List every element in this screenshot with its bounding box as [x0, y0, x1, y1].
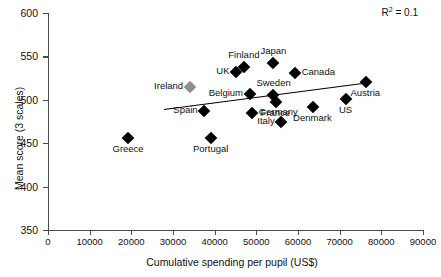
r2-annotation: R2 = 0.1 — [382, 6, 418, 18]
data-point-label: Portugal — [193, 144, 228, 154]
data-point-label: UK — [216, 66, 229, 76]
y-tick-mark — [43, 56, 48, 57]
data-point-label: Greece — [113, 144, 144, 154]
x-tick-mark — [256, 230, 257, 235]
y-tick-label: 600 — [4, 8, 38, 18]
x-axis-line — [48, 230, 423, 231]
y-tick-label: 350 — [4, 225, 38, 235]
data-point-label: Austria — [351, 88, 381, 98]
y-axis-title: Mean score (3 scales) — [13, 87, 25, 190]
x-tick-mark — [215, 230, 216, 235]
x-tick-mark — [423, 230, 424, 235]
data-point-label: US — [339, 105, 352, 115]
x-tick-mark — [381, 230, 382, 235]
data-point-marker[interactable] — [245, 106, 258, 119]
x-tick-label: 90000 — [393, 237, 441, 247]
y-tick-mark — [43, 100, 48, 101]
y-tick-mark — [43, 187, 48, 188]
x-axis-title: Cumulative spending per pupil (US$) — [14, 256, 441, 268]
data-point-label: Sweden — [256, 78, 290, 88]
y-tick-mark — [43, 13, 48, 14]
x-tick-mark — [173, 230, 174, 235]
data-point-marker[interactable] — [198, 105, 211, 118]
r2-prefix: R — [382, 7, 389, 18]
data-point-label: Japan — [260, 46, 286, 56]
x-tick-mark — [340, 230, 341, 235]
y-tick-mark — [43, 143, 48, 144]
data-point-label: Ireland — [154, 81, 183, 91]
data-point-marker[interactable] — [184, 80, 197, 93]
data-point-label: Belgium — [209, 88, 243, 98]
x-tick-mark — [131, 230, 132, 235]
data-point-label: Denmark — [293, 113, 332, 123]
data-point-marker[interactable] — [267, 57, 280, 70]
data-point-label: Canada — [302, 67, 335, 77]
x-tick-mark — [298, 230, 299, 235]
y-tick-label: 550 — [4, 51, 38, 61]
y-axis-line — [48, 13, 49, 231]
data-point-label: Italy — [257, 116, 274, 126]
x-tick-mark — [90, 230, 91, 235]
x-tick-mark — [48, 230, 49, 235]
data-point-label: Finland — [228, 50, 259, 60]
r2-value: = 0.1 — [393, 7, 418, 18]
